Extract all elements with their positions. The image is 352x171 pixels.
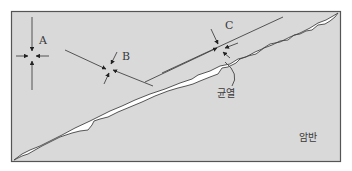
label-rock-mass: 암반 <box>299 133 317 143</box>
diagram-canvas <box>0 0 352 171</box>
label-point-c: C <box>225 20 233 31</box>
label-point-b: B <box>122 51 130 62</box>
rock-crack-diagram: A B C 균열 암반 <box>0 0 352 171</box>
label-point-a: A <box>39 35 47 46</box>
label-crack: 균열 <box>217 89 235 99</box>
